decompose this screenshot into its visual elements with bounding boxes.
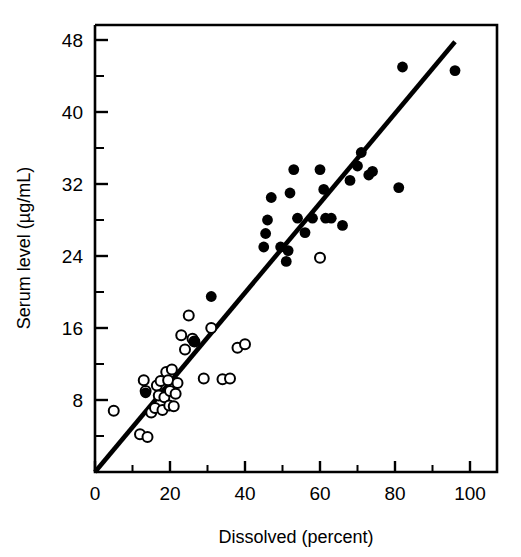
data-point-open [167,364,177,374]
data-point-open [173,378,183,388]
y-tick-label: 24 [62,246,84,267]
chart-canvas: 020406080100 81624324048 Dissolved (perc… [0,0,521,557]
data-point-filled [300,227,311,238]
y-tick-label: 32 [62,174,83,195]
data-point-open [171,389,181,399]
data-point-filled [292,213,303,224]
x-tick-label: 80 [384,483,405,504]
data-point-filled [352,161,363,172]
y-axis-ticks [95,40,108,436]
data-point-open [180,345,190,355]
x-tick-label: 40 [234,483,255,504]
y-tick-label: 16 [62,318,83,339]
x-axis-tick-labels: 020406080100 [90,483,486,504]
data-point-filled [283,245,294,256]
data-point-open [139,375,149,385]
data-point-open [199,373,209,383]
data-point-filled [266,192,277,203]
x-tick-label: 20 [159,483,180,504]
data-point-filled [140,387,151,398]
data-point-open [315,253,325,263]
y-axis-tick-labels: 81624324048 [62,30,84,411]
data-point-filled [356,147,367,158]
data-point-filled [318,184,329,195]
x-axis-ticks [95,461,470,472]
data-point-filled [189,336,200,347]
x-axis-title: Dissolved (percent) [218,527,373,547]
y-axis-title: Serum level (µg/mL) [14,167,34,329]
data-point-filled [307,213,318,224]
data-point-filled [260,228,271,239]
data-point-filled [393,182,404,193]
data-point-filled [326,213,337,224]
data-point-filled [337,220,348,231]
data-point-open [169,401,179,411]
data-point-filled [397,62,408,73]
data-point-filled [285,188,296,199]
data-point-filled [281,256,292,267]
data-point-filled [262,215,273,226]
scatter-plot-figure: 020406080100 81624324048 Dissolved (perc… [0,0,521,557]
data-point-filled [315,164,326,175]
y-tick-label: 48 [62,30,83,51]
x-tick-label: 60 [309,483,330,504]
data-point-filled [367,166,378,177]
data-point-open [184,310,194,320]
data-point-open [109,406,119,416]
data-point-filled [258,242,269,253]
data-point-filled [450,65,461,76]
data-point-filled [345,175,356,186]
data-point-open [176,330,186,340]
x-tick-label: 100 [454,483,486,504]
data-point-filled [288,164,299,175]
data-point-open [225,373,235,383]
x-tick-label: 0 [90,483,101,504]
data-point-filled [206,291,217,302]
data-point-open [143,432,153,442]
y-tick-label: 40 [62,102,83,123]
data-point-open [206,323,216,333]
y-tick-label: 8 [72,390,83,411]
data-point-open [240,339,250,349]
